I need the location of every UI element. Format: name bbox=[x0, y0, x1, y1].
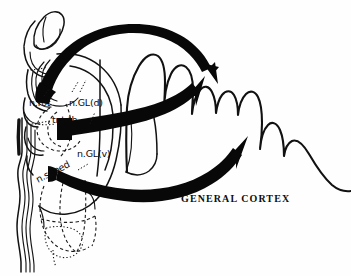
neuroanatomy-figure: n.rot n.GL(d) tr.t-th n.GL(v) n.spped GE… bbox=[0, 0, 351, 276]
leader-n-gl-d bbox=[72, 82, 78, 92]
label-n-gl-v: n.GL(v) bbox=[77, 148, 110, 159]
leader-n-gl-d-2 bbox=[80, 80, 86, 92]
olfactory-bulb-outline bbox=[34, 12, 64, 49]
brainstem-outline bbox=[17, 118, 35, 272]
label-n-gl-d: n.GL(d) bbox=[69, 97, 103, 108]
figure-canvas: n.rot n.GL(d) tr.t-th n.GL(v) n.spped GE… bbox=[0, 0, 351, 276]
leader-n-spped bbox=[78, 164, 88, 170]
label-n-rot: n.rot bbox=[29, 97, 51, 108]
cortical-gyri-wave bbox=[126, 54, 351, 191]
label-general-cortex: GENERAL CORTEX bbox=[181, 193, 290, 204]
label-tr-t-th: tr.t-th bbox=[52, 114, 77, 125]
